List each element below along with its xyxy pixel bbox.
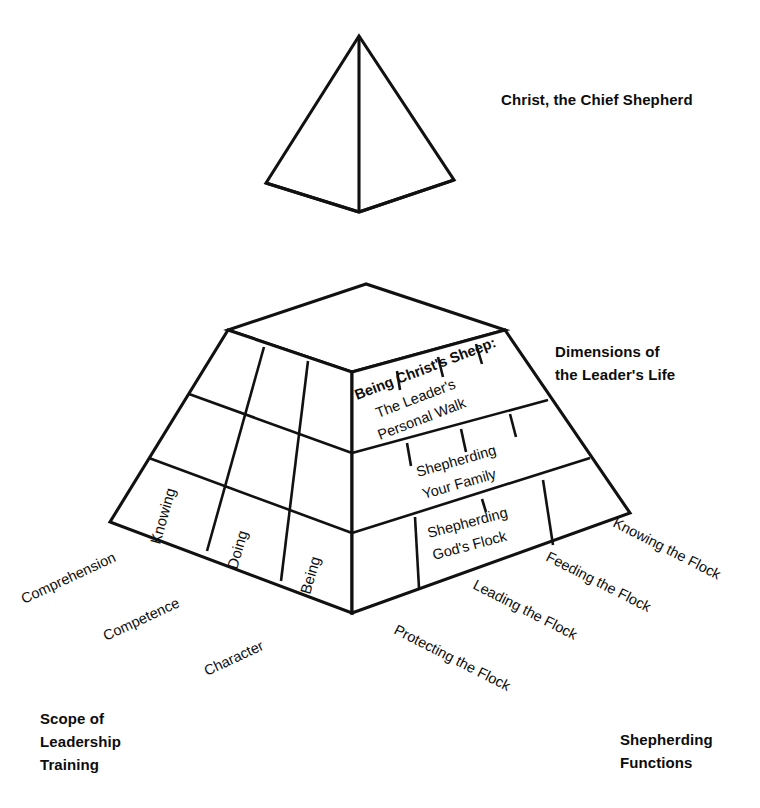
edge-leading-label: Leading the Flock xyxy=(471,576,581,643)
functions-line1: Shepherding xyxy=(620,731,713,748)
edge-protecting-label: Protecting the Flock xyxy=(392,621,514,694)
chief-shepherd-pyramid xyxy=(266,36,454,212)
edge-knowing-flock-label: Knowing the Flock xyxy=(611,514,724,582)
dimensions-line1: Dimensions of xyxy=(555,343,661,360)
scope-line3: Training xyxy=(40,756,99,773)
caption-shepherding-functions: Shepherding Functions xyxy=(620,731,713,771)
caption-dimensions: Dimensions of the Leader's Life xyxy=(555,343,675,383)
leadership-pyramid-diagram: Christ, the Chief Shepherd xyxy=(0,0,760,808)
edge-competence-label: Competence xyxy=(101,594,182,643)
caption-scope: Scope of Leadership Training xyxy=(40,710,121,773)
chief-shepherd-label: Christ, the Chief Shepherd xyxy=(501,91,693,108)
edge-feeding-label: Feeding the Flock xyxy=(544,548,655,615)
edge-character-label: Character xyxy=(202,637,267,678)
scope-line2: Leadership xyxy=(40,733,121,750)
dimensions-line2: the Leader's Life xyxy=(555,366,675,383)
edge-comprehension-label: Comprehension xyxy=(19,549,119,607)
scope-line1: Scope of xyxy=(40,710,105,727)
functions-line2: Functions xyxy=(620,754,693,771)
